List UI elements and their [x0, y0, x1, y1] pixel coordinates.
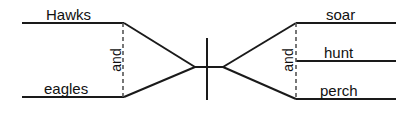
subject-branch-eagles [124, 67, 195, 97]
sentence-diagram: Hawks eagles and soar hunt perch and [0, 0, 413, 113]
predicate-conjunction-and: and [281, 43, 295, 77]
predicate-word-perch: perch [320, 83, 358, 98]
subject-word-hawks: Hawks [46, 7, 91, 22]
subject-conjunction-and: and [109, 43, 123, 77]
subject-branch-hawks [124, 23, 195, 67]
predicate-word-soar: soar [326, 7, 355, 22]
subject-word-eagles: eagles [44, 81, 88, 96]
predicate-word-hunt: hunt [324, 45, 353, 60]
